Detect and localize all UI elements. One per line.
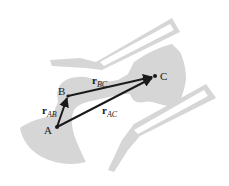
vector-subscript: AB: [47, 110, 57, 119]
point-c-dot: [153, 74, 157, 78]
point-label-a: A: [44, 125, 52, 136]
vector-label-r-ab: rAB: [42, 105, 57, 116]
point-a-dot: [55, 125, 59, 129]
vector-label-r-ac: rAC: [102, 105, 117, 116]
diagram-stage: A B C rAB rBC rAC: [0, 0, 229, 186]
vector-subscript: AC: [107, 110, 117, 119]
point-label-c: C: [160, 71, 167, 82]
point-b-dot: [66, 94, 69, 97]
point-label-b: B: [58, 86, 65, 97]
vector-label-r-bc: rBC: [92, 75, 107, 86]
mechanism-drawing: [0, 0, 229, 186]
vector-subscript: BC: [97, 80, 107, 89]
